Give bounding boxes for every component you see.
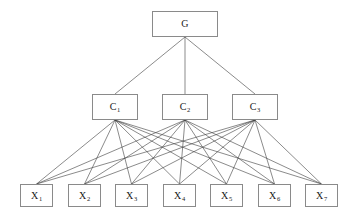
node-label-c3: C3 — [250, 102, 260, 112]
node-subscript-x7: 7 — [324, 195, 327, 202]
node-label-x2: X2 — [79, 191, 90, 201]
edge-c1-x5 — [115, 120, 227, 184]
node-label-x3: X3 — [126, 191, 137, 201]
node-label-c2: C2 — [180, 102, 190, 112]
node-subscript-x2: 2 — [87, 195, 90, 202]
node-label-x6: X6 — [269, 191, 280, 201]
edge-c2-x4 — [180, 120, 186, 184]
node-x4[interactable]: X4 — [163, 184, 196, 207]
node-subscript-x6: 6 — [277, 195, 280, 202]
node-c2[interactable]: C2 — [162, 94, 208, 120]
node-subscript-x5: 5 — [229, 195, 232, 202]
node-label-x5: X5 — [221, 191, 232, 201]
node-label-c1: C1 — [110, 102, 120, 112]
node-subscript-c2: 2 — [187, 106, 190, 113]
node-subscript-x3: 3 — [134, 195, 137, 202]
node-subscript-c3: 3 — [257, 106, 260, 113]
edge-c1-x3 — [115, 120, 132, 184]
node-subscript-x4: 4 — [182, 195, 185, 202]
edge-c3-x4 — [180, 120, 256, 184]
node-subscript-x1: 1 — [39, 195, 42, 202]
node-x2[interactable]: X2 — [68, 184, 101, 207]
edge-c3-x3 — [132, 120, 256, 184]
node-c3[interactable]: C3 — [232, 94, 278, 120]
node-g[interactable]: G — [152, 11, 218, 37]
node-x5[interactable]: X5 — [210, 184, 243, 207]
node-subscript-c1: 1 — [117, 106, 120, 113]
edge-c1-x1 — [37, 120, 116, 184]
node-x7[interactable]: X7 — [305, 184, 338, 207]
node-label-x1: X1 — [31, 191, 42, 201]
node-c1[interactable]: C1 — [92, 94, 138, 120]
diagram-canvas: GC1C2C3X1X2X3X4X5X6X7 — [0, 0, 363, 217]
edge-g-c1 — [115, 37, 185, 94]
node-label-x4: X4 — [174, 191, 185, 201]
node-x3[interactable]: X3 — [115, 184, 148, 207]
edge-g-c3 — [185, 37, 255, 94]
node-x1[interactable]: X1 — [20, 184, 53, 207]
node-label-x7: X7 — [316, 191, 327, 201]
node-label-g: G — [181, 19, 188, 29]
node-x6[interactable]: X6 — [258, 184, 291, 207]
